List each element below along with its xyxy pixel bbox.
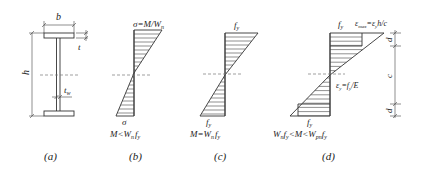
label-b: b bbox=[56, 11, 61, 22]
c-condition: M=Wnfy bbox=[189, 129, 221, 140]
c-bottom-label: fy bbox=[206, 117, 212, 128]
panel-b-elastic: σ=M/Wn σ M<Wnfy (b) bbox=[109, 19, 164, 163]
d-bottom-region bbox=[290, 75, 330, 116]
c-top-triangle bbox=[225, 33, 258, 75]
d-yield-strain-label: εy=fy/E bbox=[336, 81, 358, 91]
caption-c: (c) bbox=[214, 150, 227, 163]
caption-b: (b) bbox=[129, 150, 142, 163]
d-bottom-label: fy bbox=[307, 117, 313, 128]
c-hatching bbox=[201, 37, 255, 114]
caption-d: (d) bbox=[322, 150, 335, 163]
d-strain-label: εmax=εyh/c bbox=[355, 19, 388, 29]
d-dim-bottom-d: d bbox=[384, 108, 394, 113]
panel-d-elastic-plastic: fy εmax=εyh/c εy=fy/E fy Wnfy<M<Wpnfy d … bbox=[273, 19, 401, 163]
stress-distribution-figure: b t h tw (a) σ=M/Wn σ M<Wnfy (b) bbox=[0, 0, 421, 175]
b-bottom-label: σ bbox=[122, 117, 127, 127]
b-hatching bbox=[117, 34, 159, 113]
c-top-label: fy bbox=[234, 20, 240, 31]
b-top-label: σ=M/Wn bbox=[133, 19, 164, 30]
panel-c-edge-yield: fy fy M=Wnfy (c) bbox=[189, 20, 258, 163]
label-t: t bbox=[78, 42, 81, 52]
label-tw: tw bbox=[64, 85, 71, 96]
d-top-label: fy bbox=[338, 19, 344, 30]
d-dim-top-d: d bbox=[384, 37, 394, 42]
b-top-triangle bbox=[134, 30, 162, 73]
panel-a-i-section: b t h tw (a) bbox=[20, 11, 88, 163]
label-h: h bbox=[20, 70, 31, 75]
caption-a: (a) bbox=[44, 150, 57, 163]
b-bottom-triangle bbox=[116, 73, 134, 116]
bottom-flange bbox=[44, 111, 74, 116]
top-flange bbox=[44, 33, 74, 38]
d-condition: Wnfy<M<Wpnfy bbox=[273, 129, 327, 140]
d-dim-c: c bbox=[384, 74, 394, 78]
b-condition: M<Wnfy bbox=[109, 129, 141, 140]
